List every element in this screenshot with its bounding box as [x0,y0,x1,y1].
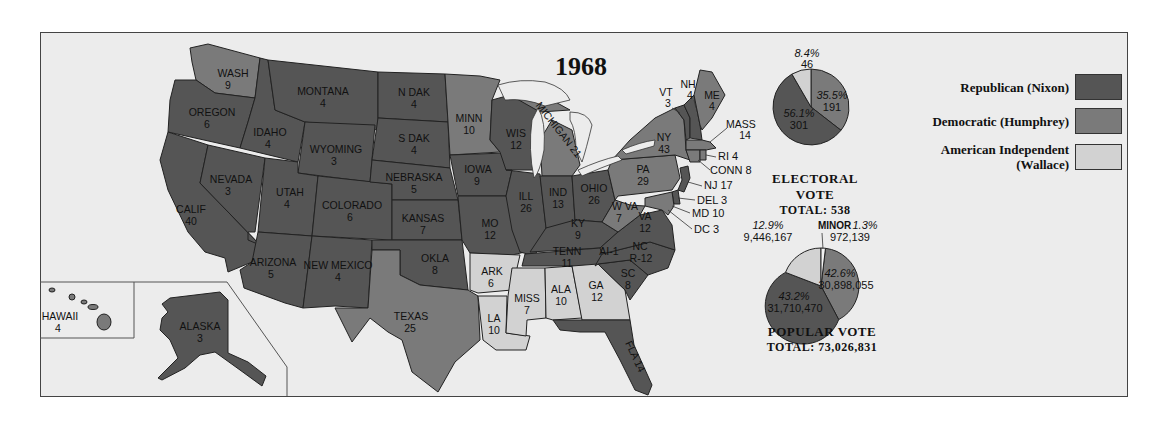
label-tenn-ev: 11 [562,257,573,269]
pv-rep-value: 31,710,470 [767,302,822,314]
label-nevada-ev: 3 [225,185,231,197]
label-va: VA [638,210,651,222]
label-mo-ev: 12 [484,229,496,241]
pv-ai-pct: 12.9% [752,219,783,231]
label-wva-ev: 7 [616,212,622,224]
label-conn: CONN 8 [710,164,752,176]
state-alaska [158,292,266,386]
label-la-ev: 10 [488,324,500,336]
label-wash: WASH [217,67,248,79]
label-idaho: IDAHO [253,126,286,138]
label-nc-ev: R-12 [630,252,653,264]
legend-swatch-republican [1075,74,1122,100]
label-dc: DC 3 [694,223,719,235]
label-sdak-ev: 4 [411,144,417,156]
label-ill-ev: 26 [520,202,532,214]
label-nebraska-ev: 5 [411,183,417,195]
label-md: MD 10 [692,207,724,219]
label-wash-ev: 9 [225,79,231,91]
label-va-ev: 12 [639,222,651,234]
legend-label-wallace: American Independent (Wallace) [941,142,1069,172]
label-del: DEL 3 [697,194,727,206]
label-texas: TEXAS [394,310,428,322]
label-montana: MONTANA [297,85,349,97]
label-colorado-ev: 6 [347,211,353,223]
label-montana-ev: 4 [320,97,326,109]
label-ga-ev: 12 [591,291,603,303]
label-oregon-ev: 6 [204,118,210,130]
label-ny-ev: 43 [658,143,670,155]
pv-dem-pct: 42.6% [824,267,855,279]
legend-swatch-democratic [1075,108,1122,134]
pv-rep-pct: 43.2% [778,290,809,302]
label-newmexico-ev: 4 [335,271,341,283]
label-nc-ai: AI-1 [599,245,618,257]
label-vt-ev: 3 [665,97,671,109]
label-ky: KY [571,217,585,229]
label-ri: RI 4 [718,150,738,162]
popular-vote-title: POPULAR VOTE [755,324,889,340]
legend-swatch-wallace [1075,144,1122,170]
electoral-vote-title: ELECTORAL VOTE [755,171,875,203]
label-pa: PA [636,163,649,175]
label-ill: ILL [519,190,534,202]
label-arizona: ARIZONA [250,256,297,268]
label-newmexico: NEW MEXICO [304,259,373,271]
label-ga: GA [588,279,603,291]
pv-ai-value: 9,446,167 [744,231,793,243]
page-title: 1968 [555,52,607,82]
label-hawaii: HAWAII [42,310,79,322]
legend-item-republican: Republican (Nixon) [900,74,1122,100]
label-nh-ev: 4 [687,89,693,101]
label-wyoming: WYOMING [310,143,363,155]
label-ndak: N DAK [398,86,430,98]
ev-dem-pct: 35.5% [816,89,847,101]
pv-minor-pct: 1.3% [852,219,877,231]
popular-vote-total: TOTAL: 73,026,831 [755,340,889,355]
label-nevada: NEVADA [210,173,252,185]
electoral-vote-pie: 35.5% 191 56.1% 301 8.4% 46 [773,47,849,145]
label-sc: SC [621,267,636,279]
legend-label-wallace-line1: American Independent [941,142,1069,157]
label-ny: NY [657,131,672,143]
label-wyoming-ev: 3 [331,155,337,167]
legend-label-democratic: Democratic (Humphrey) [932,114,1069,129]
label-ind: IND [549,186,568,198]
label-texas-ev: 25 [404,322,416,334]
label-nebraska: NEBRASKA [385,171,442,183]
legend-label-republican: Republican (Nixon) [960,80,1069,95]
pv-minor-label: MINOR [818,220,852,231]
electoral-vote-caption: ELECTORAL VOTE TOTAL: 538 [755,171,875,218]
state-ri [700,150,706,160]
label-tenn: TENN [553,245,582,257]
label-la: LA [488,312,501,324]
label-minn-ev: 10 [463,124,475,136]
label-kansas: KANSAS [402,212,445,224]
label-oregon: OREGON [189,106,236,118]
label-nc: NC [632,240,648,252]
label-ala: ALA [551,283,571,295]
label-calif-ev: 40 [185,215,197,227]
ev-rep-value: 301 [790,119,808,131]
label-iowa: IOWA [464,163,492,175]
label-nj: NJ 17 [704,179,733,191]
label-miss-ev: 7 [524,304,530,316]
label-wis: WIS [506,127,526,139]
label-alaska: ALASKA [180,320,221,332]
ev-dem-value: 191 [823,101,841,113]
label-okla: OKLA [421,252,449,264]
pv-dem-value: 30,898,055 [818,279,873,291]
label-ky-ev: 9 [575,229,581,241]
label-ala-ev: 10 [555,295,567,307]
legend-item-democratic: Democratic (Humphrey) [900,108,1122,134]
label-sc-ev: 8 [625,279,631,291]
label-miss: MISS [514,292,540,304]
label-ohio-ev: 26 [588,194,600,206]
label-calif: CALIF [176,203,206,215]
ev-rep-pct: 56.1% [783,107,814,119]
ev-ai-value: 46 [801,58,813,70]
label-wis-ev: 12 [510,139,522,151]
label-iowa-ev: 9 [474,175,480,187]
label-sdak: S DAK [398,132,430,144]
popular-vote-caption: POPULAR VOTE TOTAL: 73,026,831 [755,324,889,355]
